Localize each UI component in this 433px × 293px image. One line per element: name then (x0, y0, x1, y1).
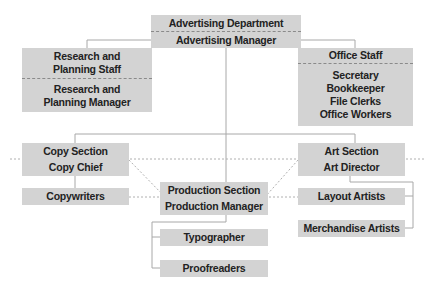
node-members: Secretary Bookkeeper File Clerks Office … (298, 64, 413, 126)
node-head: Art Director (298, 159, 405, 176)
node-copywriters: Copywriters (22, 188, 129, 205)
dotted-art-production (265, 160, 298, 197)
node-label: Typographer (160, 229, 268, 246)
node-merchandise-artists: Merchandise Artists (298, 220, 405, 237)
node-layout-artists: Layout Artists (298, 188, 405, 205)
node-title: Production Section (160, 182, 268, 198)
node-label: Proofreaders (160, 260, 268, 277)
node-head: Copy Chief (22, 159, 129, 176)
line-dept-office (301, 40, 355, 48)
node-title: Copy Section (22, 143, 129, 159)
node-head: Production Manager (160, 198, 268, 215)
node-proofreaders: Proofreaders (160, 260, 268, 277)
node-title: Advertising Department (151, 15, 301, 31)
node-head: Research and Planning Manager (22, 79, 152, 112)
node-title: Office Staff (298, 48, 413, 63)
node-production-section: Production Section Production Manager (160, 182, 268, 215)
node-label: Merchandise Artists (298, 220, 405, 237)
node-office-staff: Office Staff Secretary Bookkeeper File C… (298, 48, 413, 126)
node-label: Copywriters (22, 188, 129, 205)
node-typographer: Typographer (160, 229, 268, 246)
node-advertising-department: Advertising Department Advertising Manag… (151, 15, 301, 48)
line-dept-sections (75, 134, 355, 143)
line-dept-research (87, 40, 151, 48)
node-head: Advertising Manager (151, 32, 301, 48)
node-research-planning: Research and Planning Staff Research and… (22, 48, 152, 112)
node-title: Art Section (298, 143, 405, 159)
node-label: Layout Artists (298, 188, 405, 205)
node-art-section: Art Section Art Director (298, 143, 405, 176)
node-copy-section: Copy Section Copy Chief (22, 143, 129, 176)
node-title: Research and Planning Staff (22, 48, 152, 78)
